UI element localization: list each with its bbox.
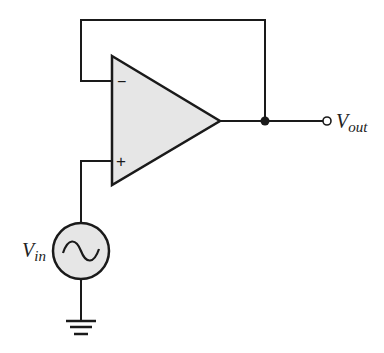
vin-label: Vin (22, 239, 46, 264)
inverting-input-symbol: − (117, 73, 126, 90)
vout-label: Vout (336, 110, 368, 135)
op-amp-triangle (112, 56, 220, 185)
junction-dot (261, 117, 270, 126)
ground-icon (66, 321, 96, 334)
circuit-diagram: − + Vout Vin (0, 0, 384, 353)
noninverting-input-symbol: + (116, 152, 126, 171)
input-wire (81, 161, 112, 223)
output-terminal (323, 117, 331, 125)
